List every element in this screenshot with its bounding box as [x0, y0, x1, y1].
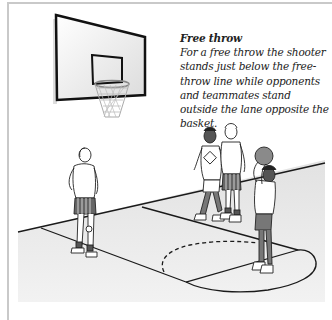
basketball-backboard — [53, 15, 145, 104]
court-floor — [18, 160, 325, 302]
caption-title: Free throw — [180, 31, 330, 45]
figure-caption: Free throw For a free throw the shooter … — [180, 31, 330, 130]
caption-body: For a free throw the shooter stands just… — [180, 45, 330, 130]
